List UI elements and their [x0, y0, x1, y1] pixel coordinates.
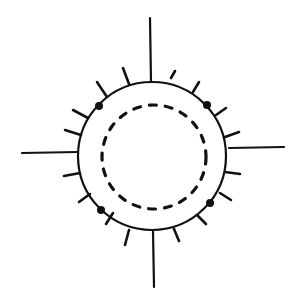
- tick-mark: [65, 130, 81, 135]
- diagram-canvas: [0, 0, 305, 304]
- tick-mark: [216, 108, 226, 115]
- axis-lines: [22, 18, 284, 287]
- tick-mark: [220, 193, 231, 200]
- tick-mark: [225, 172, 240, 174]
- tick-mark: [193, 82, 199, 92]
- dot-marker: [95, 102, 103, 110]
- inner-dashed-circle: [102, 105, 206, 209]
- tick-mark: [123, 68, 129, 84]
- circle-diagram: [0, 0, 305, 304]
- circle-dots: [95, 101, 214, 214]
- dot-marker: [97, 206, 105, 214]
- tick-mark: [125, 230, 129, 245]
- axis-line-left: [22, 152, 78, 153]
- tick-marks: [64, 68, 240, 245]
- tick-mark: [97, 82, 107, 97]
- axis-line-top: [150, 18, 151, 82]
- axis-line-bottom: [153, 231, 154, 287]
- dot-marker: [203, 101, 211, 109]
- tick-mark: [171, 71, 175, 78]
- axis-line-right: [229, 147, 284, 148]
- tick-mark: [64, 173, 80, 176]
- tick-mark: [197, 215, 206, 224]
- tick-mark: [174, 229, 179, 241]
- tick-mark: [225, 132, 239, 137]
- dot-marker: [206, 199, 214, 207]
- tick-mark: [73, 110, 88, 118]
